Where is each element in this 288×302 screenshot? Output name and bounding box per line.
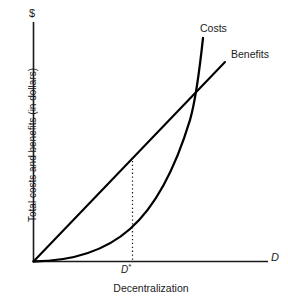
series-label-costs: Costs xyxy=(200,23,227,34)
series-label-benefits: Benefits xyxy=(231,49,269,60)
dstar-tick-label: D* xyxy=(121,263,131,275)
y-axis-currency-symbol: $ xyxy=(29,8,35,19)
chart-plot-area xyxy=(0,0,288,302)
chart-figure: $ Total costs and benefits (in dollars) … xyxy=(0,0,288,302)
x-axis-title: Decentralization xyxy=(33,283,269,294)
series-curve-costs xyxy=(34,38,204,262)
x-axis-variable-symbol: D xyxy=(271,252,279,263)
dstar-superscript: * xyxy=(128,262,131,271)
y-axis-title: Total costs and benefits (in dollars) xyxy=(28,50,38,240)
